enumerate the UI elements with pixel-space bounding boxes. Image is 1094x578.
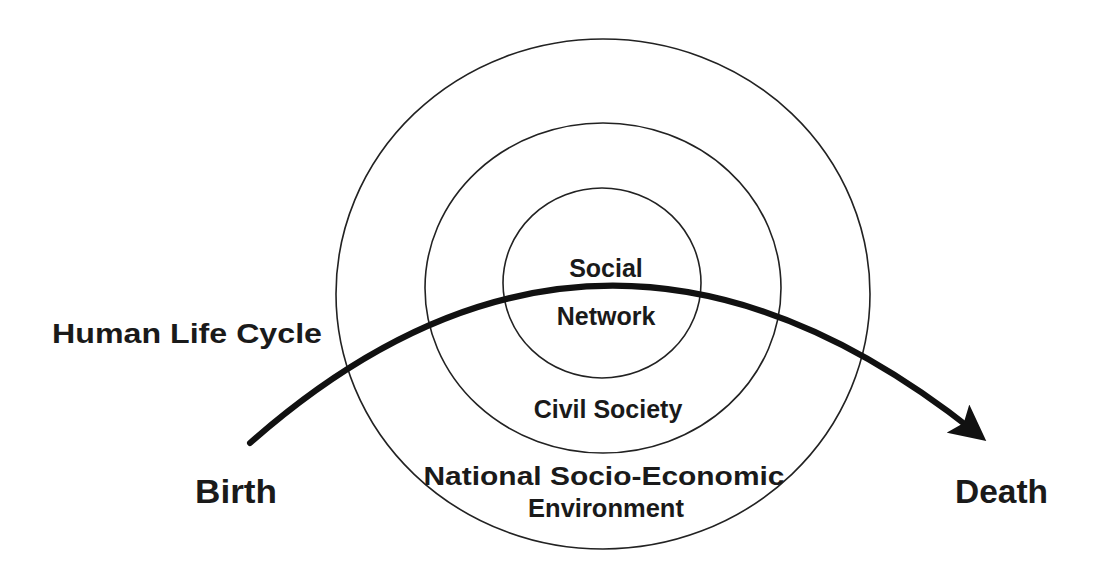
life-cycle-title: Human Life Cycle [52,319,322,349]
death-label: Death [955,472,1048,510]
birth-label: Birth [195,472,277,510]
middle-ring-label: Civil Society [534,395,683,423]
outer-ring-label-line2: Environment [528,494,684,522]
inner-ring-label-line1: Social [569,254,643,282]
life-cycle-concentric-diagram: Social Network Civil Society National So… [0,0,1094,578]
outer-ring-label-line1: National Socio-Economic [424,462,785,490]
inner-ring-label-line2: Network [557,302,656,330]
